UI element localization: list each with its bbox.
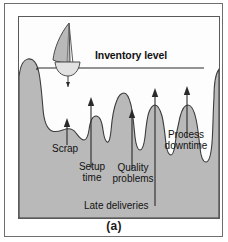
label-quality-problems: Quality problems <box>108 162 158 184</box>
label-late-deliveries: Late deliveries <box>84 201 148 211</box>
label-process-downtime: Process downtime <box>158 129 214 151</box>
label-quality-line1: Quality <box>108 162 158 173</box>
label-setup-time: Setup time <box>75 161 109 183</box>
inventory-water-diagram <box>19 17 219 218</box>
label-setup-line1: Setup <box>75 161 109 172</box>
figure-root: Inventory level Scrap Setup time Quality… <box>0 0 228 242</box>
figure-outer-frame: Inventory level Scrap Setup time Quality… <box>4 3 223 237</box>
figure-caption: (a) <box>0 219 228 233</box>
inventory-level-label: Inventory level <box>95 50 167 61</box>
label-setup-line2: time <box>75 172 109 183</box>
label-process-line1: Process <box>158 129 214 140</box>
label-scrap: Scrap <box>52 144 78 154</box>
label-process-line2: downtime <box>158 140 214 151</box>
diagram-canvas: Inventory level Scrap Setup time Quality… <box>18 16 220 219</box>
label-quality-line2: problems <box>108 173 158 184</box>
